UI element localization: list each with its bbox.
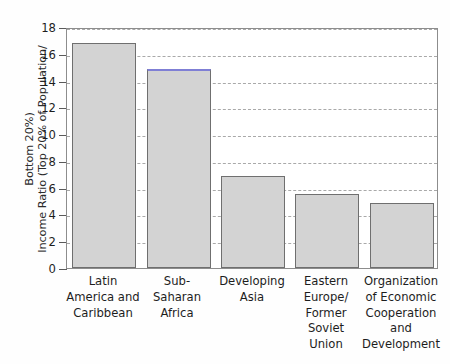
x-category-label-line: and: [358, 321, 444, 337]
x-category-label-line: Cooperation: [358, 306, 444, 322]
x-category-label-line: Union: [283, 337, 369, 353]
x-category-label-line: Africa: [134, 306, 220, 322]
y-tick-label: 18: [30, 21, 56, 35]
x-category-label-line: Soviet: [283, 321, 369, 337]
bar-chart-figure: Income Ratio (Top 20% of Population/ Bot…: [0, 0, 450, 364]
y-tick-label: 14: [30, 75, 56, 89]
y-tick-label: 10: [30, 128, 56, 142]
x-category-label-line: Organization: [358, 274, 444, 290]
y-tick-label: 12: [30, 101, 56, 115]
x-category-label-line: Saharan: [134, 290, 220, 306]
x-category-label-line: Sub-: [134, 274, 220, 290]
x-category-label-line: Eastern: [283, 274, 369, 290]
x-category-label: Sub-SaharanAfrica: [134, 274, 220, 321]
x-category-label-line: Europe/: [283, 290, 369, 306]
x-category-label: EasternEurope/FormerSovietUnion: [283, 274, 369, 353]
y-tick-label: 16: [30, 48, 56, 62]
y-tick-label: 2: [30, 235, 56, 249]
x-category-label-line: of Economic: [358, 290, 444, 306]
y-tick-label: 0: [30, 262, 56, 276]
x-category-label: Organizationof EconomicCooperationandDev…: [358, 274, 444, 353]
x-category-label-line: Former: [283, 306, 369, 322]
bar[interactable]: [370, 203, 434, 268]
bar-series: [67, 29, 437, 268]
x-category-label-line: Development: [358, 337, 444, 353]
bar[interactable]: [221, 176, 285, 268]
y-tick-label: 4: [30, 208, 56, 222]
plot-area: [66, 28, 438, 269]
y-tick-label: 6: [30, 182, 56, 196]
bar[interactable]: [72, 43, 136, 268]
bar[interactable]: [147, 69, 211, 268]
y-tick-label: 8: [30, 155, 56, 169]
y-tick-mark: [59, 269, 67, 270]
x-axis-labels: LatinAmerica andCaribbeanSub-SaharanAfri…: [66, 274, 438, 362]
bar[interactable]: [295, 194, 359, 268]
